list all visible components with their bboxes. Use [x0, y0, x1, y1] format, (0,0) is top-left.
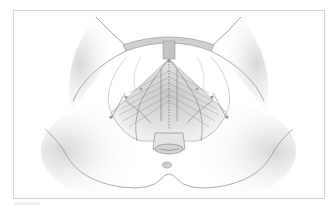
left-thigh-shade: [69, 17, 123, 111]
pelvic-floor-illustration: [14, 11, 324, 198]
right-thigh-shade: [213, 17, 268, 111]
coccyx-mark: [163, 162, 172, 168]
smudge-mark: [14, 202, 40, 205]
pubic-symphysis: [163, 41, 175, 59]
illustration-frame: [13, 10, 325, 199]
